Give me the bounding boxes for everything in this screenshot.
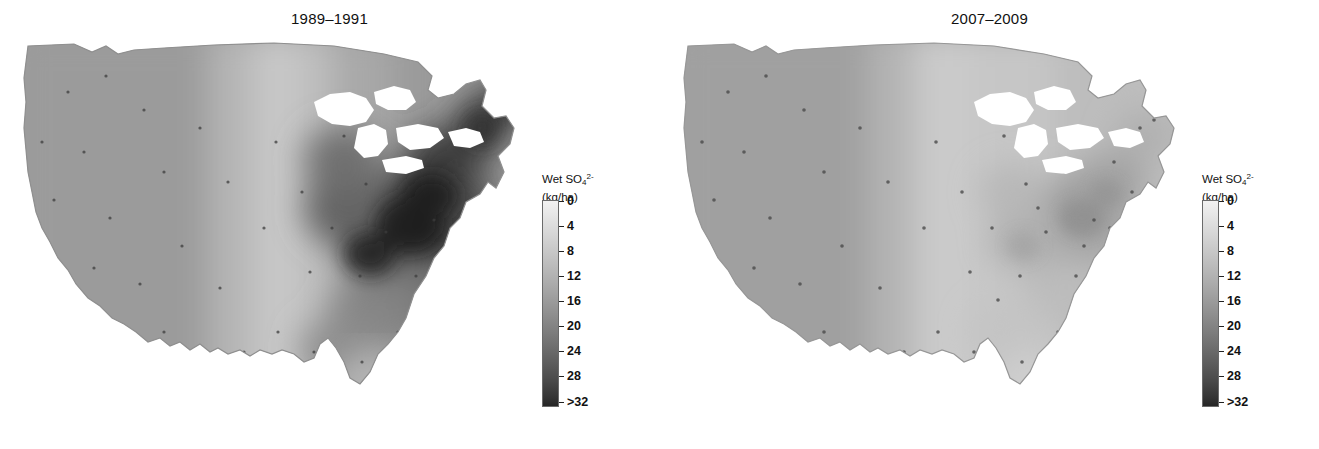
tick-dash	[1219, 376, 1224, 377]
legend-title-superscript: 2-	[587, 172, 594, 181]
tick-label: 4	[1227, 219, 1234, 234]
tick-dash	[559, 226, 564, 227]
panel-title: 2007–2009	[660, 10, 1319, 27]
tick-label: 12	[1227, 269, 1241, 284]
map-panel-2007-2009: 2007–2009	[660, 0, 1319, 449]
tick-label: 8	[1227, 244, 1234, 259]
map-1989-1991	[14, 32, 534, 432]
tick-dash	[559, 276, 564, 277]
legend-title-text: Wet SO	[1202, 173, 1242, 185]
tick-dash	[1219, 251, 1224, 252]
tick-label: 8	[567, 244, 574, 259]
map-2007-2009	[674, 32, 1194, 432]
tick-label: 0	[567, 194, 574, 209]
tick-dash	[1219, 201, 1224, 202]
tick-label: 28	[567, 369, 581, 384]
legend-title-superscript: 2-	[1247, 172, 1254, 181]
tick-label: 16	[567, 294, 581, 309]
tick-dash	[1219, 226, 1224, 227]
figure-root: 1989–1991	[0, 0, 1319, 449]
legend-title-text: Wet SO	[542, 173, 582, 185]
tick-label: 20	[567, 319, 581, 334]
tick-dash	[1219, 276, 1224, 277]
tick-dash	[559, 376, 564, 377]
tick-dash	[559, 251, 564, 252]
tick-dash	[559, 351, 564, 352]
panel-title: 1989–1991	[0, 10, 659, 27]
tick-label: 16	[1227, 294, 1241, 309]
tick-label: 20	[1227, 319, 1241, 334]
tick-label: >32	[1227, 395, 1248, 410]
tick-label: 12	[567, 269, 581, 284]
map-panel-1989-1991: 1989–1991	[0, 0, 659, 449]
legend-title: Wet SO42-	[528, 170, 656, 190]
tick-dash	[559, 301, 564, 302]
legend-body: 0 4 8 12 16 20 24 28 >32	[1202, 200, 1312, 408]
tick-dash	[1219, 301, 1224, 302]
tick-label: 0	[1227, 194, 1234, 209]
legend-colorbar	[1202, 200, 1219, 407]
legend-colorbar	[542, 200, 559, 407]
legend-body: 0 4 8 12 16 20 24 28 >32	[542, 200, 652, 408]
tick-dash	[1219, 402, 1224, 403]
tick-label: 28	[1227, 369, 1241, 384]
tick-dash	[1219, 351, 1224, 352]
tick-dash	[559, 326, 564, 327]
tick-label: 24	[1227, 344, 1241, 359]
tick-dash	[559, 201, 564, 202]
legend-2007-2009: Wet SO42- (kg/ha) 0 4 8 12 16 20 24 28 >…	[1188, 170, 1316, 420]
map-svg-1989-1991	[14, 32, 534, 432]
tick-label: 4	[567, 219, 574, 234]
legend-title: Wet SO42-	[1188, 170, 1316, 190]
map-svg-2007-2009	[674, 32, 1194, 432]
tick-dash	[1219, 326, 1224, 327]
tick-label: >32	[567, 395, 588, 410]
tick-dash	[559, 402, 564, 403]
legend-1989-1991: Wet SO42- (kg/ha) 0 4 8 12 16 20 24 28 >…	[528, 170, 656, 420]
tick-label: 24	[567, 344, 581, 359]
